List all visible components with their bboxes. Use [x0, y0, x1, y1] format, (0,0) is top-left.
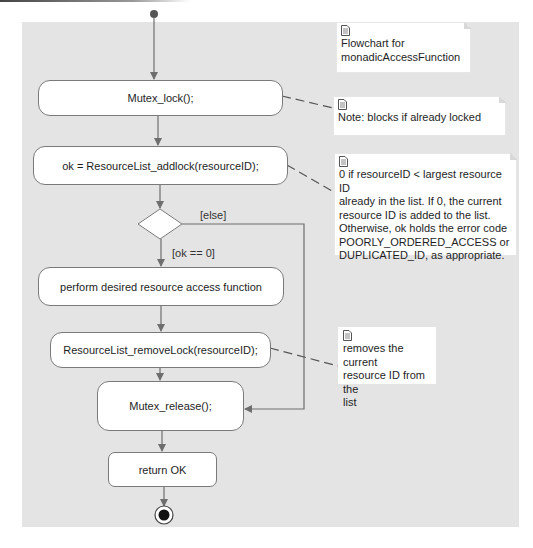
clipped-caption — [0, 540, 533, 548]
action-return-ok[interactable]: return OK — [108, 452, 217, 487]
note-text-line: Otherwise, ok holds the error code — [339, 222, 512, 236]
action-label: Mutex_release(); — [129, 400, 212, 412]
note-text-line: list — [343, 396, 431, 410]
action-mutex-release[interactable]: Mutex_release(); — [97, 381, 244, 431]
note-text-line: already in the list. If 0, the current — [339, 195, 512, 209]
decision-diamond — [138, 209, 182, 239]
guard-ok-zero: [ok == 0] — [172, 247, 215, 259]
note-fold — [510, 153, 517, 160]
note-addlock[interactable]: 0 if resourceID < largest resource ID al… — [334, 153, 517, 256]
action-label: perform desired resource access function — [60, 281, 262, 293]
note-text-line: Flowchart for — [341, 37, 466, 51]
note-fold — [464, 22, 471, 29]
note-text-line: Note: blocks if already locked — [338, 111, 501, 125]
action-perform-access[interactable]: perform desired resource access function — [38, 267, 284, 306]
action-label: Mutex_lock(); — [127, 92, 193, 104]
action-label: ResourceList_removeLock(resourceID); — [63, 344, 257, 356]
note-icon — [343, 330, 352, 341]
note-text-line: monadicAccessFunction — [341, 51, 466, 65]
action-mutex-lock[interactable]: Mutex_lock(); — [38, 80, 283, 116]
note-text-line: removes the current — [343, 342, 431, 369]
action-remove-lock[interactable]: ResourceList_removeLock(resourceID); — [50, 332, 271, 368]
note-remove-lock[interactable]: removes the current resource ID from the… — [338, 327, 436, 384]
note-text-line: POORLY_ORDERED_ACCESS or — [339, 236, 512, 250]
note-fold — [499, 96, 506, 103]
note-text-line: 0 if resourceID < largest resource ID — [339, 168, 512, 195]
note-icon — [339, 156, 348, 167]
note-text-line: resource ID is added to the list. — [339, 209, 512, 223]
action-label: ok = ResourceList_addlock(resourceID); — [62, 160, 259, 172]
note-title[interactable]: Flowchart for monadicAccessFunction — [336, 22, 471, 73]
final-node-icon — [155, 506, 173, 524]
note-text-line: DUPLICATED_ID, as appropriate. — [339, 249, 512, 263]
note-text-line: resource ID from the — [343, 369, 431, 396]
action-addlock[interactable]: ok = ResourceList_addlock(resourceID); — [33, 146, 288, 185]
note-mutex-lock[interactable]: Note: blocks if already locked — [333, 96, 506, 136]
note-icon — [338, 99, 347, 110]
guard-else: [else] — [200, 209, 226, 221]
action-label: return OK — [139, 464, 187, 476]
note-icon — [341, 25, 350, 36]
initial-node-icon — [150, 10, 158, 18]
